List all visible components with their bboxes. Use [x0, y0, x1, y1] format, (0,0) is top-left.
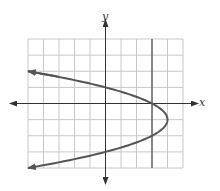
x-axis-label: x: [199, 96, 205, 109]
axes: [10, 20, 198, 184]
parabola-chart: [0, 0, 220, 191]
y-axis-label: y: [102, 10, 108, 23]
